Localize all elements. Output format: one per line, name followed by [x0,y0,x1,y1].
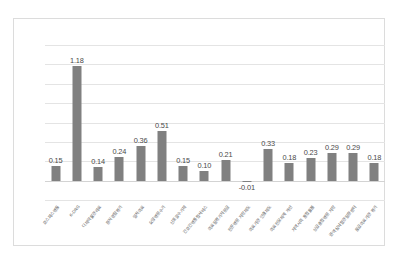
bar[interactable] [179,166,188,181]
bar-slot: -0.01 [236,45,257,200]
chart-figure: 0.151.180.140.240.360.510.150.100.21-0.0… [0,0,399,261]
x-axis-category-label: K-DRG [68,204,81,218]
bar[interactable] [72,66,81,180]
bar-value-label: 0.14 [91,157,105,166]
bar-value-label: 0.24 [112,147,126,156]
bar-slot: 0.14 [88,45,109,200]
x-label-slot: 환자경험평가 [109,202,130,261]
x-label-slot: 일차의료 [130,202,151,261]
bar-value-label: 0.18 [282,153,296,162]
bar-series: 0.151.180.140.240.360.510.150.100.21-0.0… [45,45,385,200]
plot-area: 0.151.180.140.240.360.510.150.100.21-0.0… [45,45,385,200]
bar-slot: 0.29 [321,45,342,200]
bar[interactable] [285,163,294,180]
bar-value-label: -0.01 [239,183,255,192]
bar-value-label: 0.10 [197,161,211,170]
x-label-slot: 전문병원 지정제도 [236,202,257,261]
bar-value-label: 0.23 [304,148,318,157]
x-label-slot: K-DRG [66,202,87,261]
bar[interactable] [115,157,124,180]
x-axis-category-label: 일차의료 [130,204,145,220]
bar-value-label: 0.15 [176,156,190,165]
bar-slot: 0.29 [343,45,364,200]
x-label-slot: 의료질평가지원금 [215,202,236,261]
x-label-slot: 의료전달체계 개선 [279,202,300,261]
x-label-slot: 간호간병통합서비스 [194,202,215,261]
bar[interactable] [221,160,230,180]
bar-value-label: 0.29 [325,143,339,152]
bar-slot: 0.33 [258,45,279,200]
bar[interactable] [94,167,103,181]
x-label-slot: 권역심뇌혈관질환센터 [343,202,364,261]
bar-slot: 0.21 [215,45,236,200]
bar-value-label: 1.18 [70,56,84,65]
bar[interactable] [349,153,358,181]
bar-slot: 0.15 [173,45,194,200]
bar[interactable] [51,166,60,181]
gridline [45,200,385,201]
chart-title [0,0,399,8]
bar[interactable] [200,171,209,181]
x-label-slot: 지역사회 통합돌봄 [300,202,321,261]
x-label-slot: 응급의료기관 평가 [364,202,385,261]
bar-value-label: 0.18 [367,153,381,162]
bar[interactable] [264,149,273,181]
bar[interactable] [136,146,145,181]
bar[interactable] [242,181,251,182]
bar-value-label: 0.51 [155,121,169,130]
bar-slot: 0.51 [151,45,172,200]
bar-value-label: 0.21 [219,150,233,159]
x-axis-category-label: 호스피스병동 [40,204,60,226]
bar-slot: 0.23 [300,45,321,200]
bar[interactable] [370,163,379,180]
bar[interactable] [327,153,336,181]
bar-value-label: 0.15 [49,156,63,165]
bar[interactable] [157,131,166,180]
x-label-slot: 호스피스병동 [45,202,66,261]
x-axis-labels: 호스피스병동K-DRG다제약물관리료환자경험평가일차의료요양병원수가신포괄수가제… [45,202,385,261]
x-label-slot: 다제약물관리료 [88,202,109,261]
bar-slot: 0.36 [130,45,151,200]
bar-slot: 0.10 [194,45,215,200]
bar-slot: 0.18 [279,45,300,200]
x-label-slot: 요양병원수가 [151,202,172,261]
bar-slot: 0.15 [45,45,66,200]
bar-slot: 1.18 [66,45,87,200]
bar-value-label: 0.33 [261,139,275,148]
bar[interactable] [306,158,315,180]
bar-slot: 0.24 [109,45,130,200]
chart-plot-frame: 0.151.180.140.240.360.510.150.100.21-0.0… [13,18,385,246]
bar-value-label: 0.36 [134,136,148,145]
bar-slot: 0.18 [364,45,385,200]
x-label-slot: 의료기관 인증제도 [258,202,279,261]
bar-value-label: 0.29 [346,143,360,152]
